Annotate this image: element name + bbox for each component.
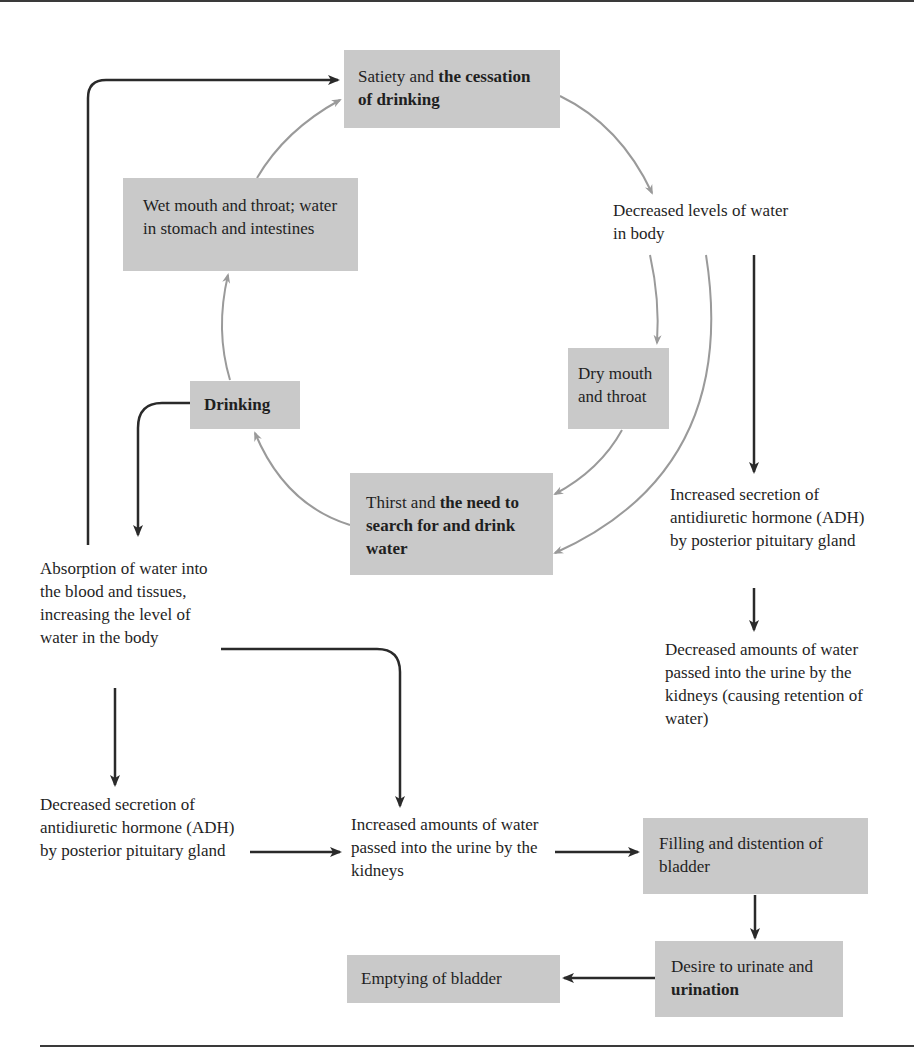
node-wet-mouth-text: Wet mouth and throat; water in stomach a… [143, 196, 337, 238]
arrow-levels-to-dry-mouth [650, 255, 658, 343]
label-decreased-adh: Decreased secretion of antidiuretic horm… [40, 793, 250, 862]
label-increased-adh: Increased secretion of antidiuretic horm… [670, 483, 870, 552]
node-thirst: Thirst and the need to search for and dr… [350, 473, 553, 575]
node-satiety: Satiety and the cessation of drinking [344, 50, 560, 128]
node-filling-text: Filling and distention of bladder [659, 834, 823, 876]
node-drinking: Drinking [190, 381, 300, 429]
label-decreased-levels: Decreased levels of water in body [613, 199, 793, 245]
node-emptying: Emptying of bladder [347, 955, 560, 1003]
arrow-dry-mouth-to-thirst [555, 430, 622, 494]
node-drinking-text: Drinking [204, 395, 270, 414]
node-emptying-text: Emptying of bladder [361, 969, 502, 988]
arrow-drinking-to-absorption [138, 403, 190, 535]
label-absorption: Absorption of water into the blood and t… [40, 557, 220, 649]
label-decreased-urine: Decreased amounts of water passed into t… [665, 638, 875, 730]
node-desire: Desire to urinate and urination [655, 941, 843, 1017]
arrow-drinking-to-wet-mouth [222, 275, 230, 380]
node-dry-mouth-text: Dry mouth and throat [578, 364, 652, 406]
node-dry-mouth: Dry mouth and throat [568, 348, 669, 429]
node-filling: Filling and distention of bladder [643, 818, 868, 894]
node-thirst-plain: Thirst and [366, 493, 440, 512]
arrow-wet-mouth-to-satiety [257, 100, 340, 178]
arrow-absorption-to-satiety [88, 80, 338, 545]
arrow-absorption-to-increased-urine [221, 649, 400, 806]
arrow-satiety-to-decreased-levels [560, 96, 652, 193]
label-increased-urine: Increased amounts of water passed into t… [351, 813, 551, 882]
node-desire-bold: urination [671, 980, 739, 999]
node-wet-mouth: Wet mouth and throat; water in stomach a… [123, 178, 358, 271]
node-desire-plain: Desire to urinate and [671, 957, 813, 976]
node-satiety-plain: Satiety and [358, 67, 438, 86]
arrow-thirst-to-drinking [255, 433, 350, 525]
